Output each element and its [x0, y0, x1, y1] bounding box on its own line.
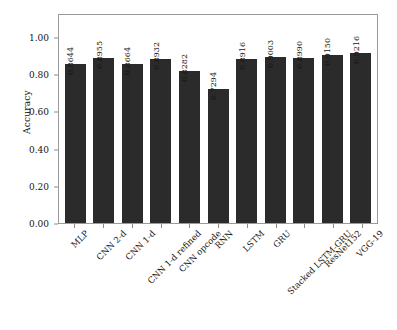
- bar-slot: 0.9003: [261, 15, 290, 223]
- x-axis-tick-mark: [333, 224, 334, 228]
- x-tick-slot: CNN 1-d: [117, 224, 146, 330]
- x-axis-tick-mark: [276, 224, 277, 228]
- bar-series: 0.86440.89550.86640.89320.82820.72940.89…: [59, 15, 377, 223]
- x-axis-tick-mark: [304, 224, 305, 228]
- bar: 0.9216: [350, 53, 371, 223]
- y-axis-tick-labels: 0.000.200.400.600.801.00: [0, 0, 54, 330]
- bar: 0.7294: [208, 89, 229, 223]
- x-axis-tick-mark: [74, 224, 75, 228]
- bar-slot: 0.7294: [204, 15, 233, 223]
- bar-slot: 0.8932: [147, 15, 176, 223]
- bar-value-label: 0.9150: [324, 38, 332, 66]
- bar-value-label: 0.7294: [210, 72, 218, 100]
- plot-area: 0.86440.89550.86640.89320.82820.72940.89…: [58, 14, 378, 224]
- x-axis-tick-label: MLP: [70, 229, 90, 249]
- x-axis-tick-mark: [247, 224, 248, 228]
- bar: 0.8282: [179, 71, 200, 223]
- bar: 0.8955: [93, 58, 114, 223]
- bar: 0.8644: [65, 64, 86, 223]
- bar-slot: 0.8644: [61, 15, 90, 223]
- x-tick-slot: CNN opcode: [175, 224, 204, 330]
- y-axis-tick-label: 0.00: [29, 219, 49, 229]
- bar: 0.8932: [150, 59, 171, 223]
- bar-slot: 0.8664: [118, 15, 147, 223]
- x-axis-tick-label: VGG-19: [355, 229, 385, 259]
- x-axis-tick-mark: [362, 224, 363, 228]
- bar-value-label: 0.8932: [153, 42, 161, 70]
- y-axis-tick-label: 0.60: [29, 107, 49, 117]
- bar-value-label: 0.8990: [296, 41, 304, 69]
- bar: 0.8664: [122, 64, 143, 223]
- x-axis-tick-mark: [189, 224, 190, 228]
- bar-slot: 0.8955: [90, 15, 119, 223]
- x-axis-tick-label: GRU: [271, 229, 291, 249]
- y-axis-tick-label: 0.20: [29, 182, 49, 192]
- x-tick-slot: LSTM: [232, 224, 261, 330]
- x-axis-tick-mark: [161, 224, 162, 228]
- x-tick-slot: MLP: [60, 224, 89, 330]
- bar-chart-figure: Accuracy 0.000.200.400.600.801.00 0.8644…: [0, 0, 397, 330]
- bar-slot: 0.8282: [175, 15, 204, 223]
- bar-value-label: 0.8664: [124, 47, 132, 75]
- x-tick-slot: RNN: [204, 224, 233, 330]
- bar-slot: 0.9216: [346, 15, 375, 223]
- x-axis-tick-labels: MLPCNN 2-dCNN 1-dCNN 1-d refinedCNN opco…: [58, 224, 378, 330]
- bar-value-label: 0.8282: [181, 54, 189, 82]
- bar: 0.8916: [236, 59, 257, 223]
- bar-slot: 0.8916: [232, 15, 261, 223]
- x-tick-slot: Stacked LSTM-GRU: [290, 224, 319, 330]
- y-axis-tick-label: 1.00: [29, 33, 49, 43]
- bar-value-label: 0.9216: [353, 36, 361, 64]
- bar: 0.9150: [322, 55, 343, 223]
- bar-value-label: 0.8916: [239, 42, 247, 70]
- bar: 0.8990: [293, 58, 314, 223]
- bar: 0.9003: [265, 57, 286, 223]
- x-tick-slot: CNN 2-d: [89, 224, 118, 330]
- x-tick-slot: GRU: [261, 224, 290, 330]
- y-axis-tick-label: 0.40: [29, 145, 49, 155]
- x-axis-tick-mark: [103, 224, 104, 228]
- x-axis-tick-mark: [218, 224, 219, 228]
- bar-slot: 0.9150: [318, 15, 347, 223]
- x-tick-slot: ResNet152: [319, 224, 348, 330]
- bar-value-label: 0.9003: [267, 40, 275, 68]
- bar-value-label: 0.8644: [67, 47, 75, 75]
- y-axis-tick-label: 0.80: [29, 70, 49, 80]
- x-tick-slot: VGG-19: [347, 224, 376, 330]
- x-tick-slot: CNN 1-d refined: [146, 224, 175, 330]
- bar-value-label: 0.8955: [96, 41, 104, 69]
- x-axis-tick-mark: [132, 224, 133, 228]
- bar-slot: 0.8990: [289, 15, 318, 223]
